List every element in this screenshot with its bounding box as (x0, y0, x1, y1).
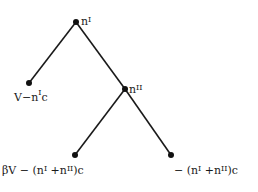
node-2 (122, 86, 128, 92)
left-leaf-payoff: V−nIc (14, 92, 48, 103)
br-payoff-sup2: II (221, 164, 227, 173)
br-payoff-mid: +n (201, 164, 221, 177)
node2-label-sup: II (136, 83, 142, 92)
node2-label: nII (129, 84, 142, 95)
bl-payoff-post: )c (73, 164, 83, 177)
br-payoff-pre: − (n (174, 164, 198, 177)
root-label-sup: I (88, 15, 91, 24)
bl-payoff-mid: +n (47, 164, 67, 177)
edge-node2-bottom-right (125, 89, 171, 155)
bottom-left-leaf-payoff: βV − (nI +nII)c (2, 165, 84, 176)
bl-payoff-sup2: II (67, 164, 73, 173)
br-payoff-post: )c (227, 164, 237, 177)
left-leaf-node (26, 80, 32, 86)
left-payoff-sup: I (38, 88, 41, 97)
bottom-right-leaf-payoff: − (nI +nII)c (174, 165, 238, 176)
bottom-left-leaf-node (72, 152, 78, 158)
edge-node2-bottom-left (75, 89, 125, 155)
left-payoff-post: c (41, 91, 47, 104)
left-payoff-pre: V−n (14, 91, 38, 104)
bottom-right-leaf-node (168, 152, 174, 158)
bl-payoff-pre: βV − (n (2, 164, 44, 177)
root-label: nI (81, 16, 91, 27)
bl-payoff-sup1: I (44, 164, 47, 173)
edge-root-left (29, 22, 76, 83)
root-node (73, 19, 79, 25)
br-payoff-sup1: I (198, 164, 201, 173)
edge-root-node2 (76, 22, 125, 89)
